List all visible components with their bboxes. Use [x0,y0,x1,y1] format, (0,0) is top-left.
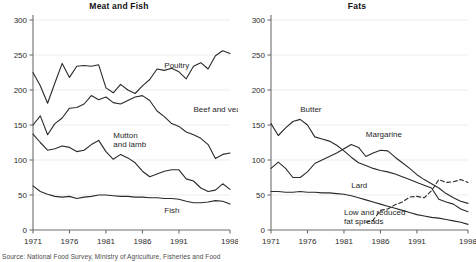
series-label-mutton-and-lamb: and lamb [113,140,146,149]
series-label-butter: Butter [300,105,322,114]
chart-panel-fats: Fats 05010015020025030019711976198119861… [238,0,476,262]
y-axis-tick-label: 300 [14,16,28,25]
y-axis-tick-label: 0 [23,226,28,235]
series-label-poultry: Poultry [164,61,189,70]
series-label-fish: Fish [164,206,179,215]
figure-container: Meat and Fish 05010015020025030019711976… [0,0,476,262]
series-label-beef-and-veal: Beef and veal [194,105,238,114]
y-axis-tick-label: 100 [14,156,28,165]
x-axis-tick-label: 1981 [335,237,353,246]
series-label-mutton-and-lamb: Mutton [113,131,137,140]
x-axis-tick-label: 1998 [459,237,476,246]
y-axis-tick-label: 200 [14,86,28,95]
series-label-margarine: Margarine [366,130,403,139]
x-axis-tick-label: 1991 [408,237,426,246]
y-axis-tick-label: 150 [252,121,266,130]
y-axis-tick-label: 50 [256,191,265,200]
x-axis-tick-label: 1976 [61,237,79,246]
source-note: Source: National Food Survey, Ministry o… [2,253,472,261]
chart-panel-meat-and-fish: Meat and Fish 05010015020025030019711976… [0,0,238,262]
series-label-low-and-reduced-fat-spreads: fat spreads [344,217,384,226]
x-axis-tick-label: 1971 [262,237,280,246]
plot-area-fats: 0501001502002503001971197619811986199119… [238,0,476,262]
x-axis-tick-label: 1981 [97,237,115,246]
y-axis-tick-label: 50 [18,191,27,200]
y-axis-tick-label: 300 [252,16,266,25]
x-axis-tick-label: 1986 [372,237,390,246]
plot-area-meat-and-fish: 0501001502002503001971197619811986199119… [0,0,238,262]
series-label-lard: Lard [351,181,367,190]
x-axis-tick-label: 1998 [221,237,238,246]
y-axis-tick-label: 200 [252,86,266,95]
series-line-poultry [33,51,230,104]
x-axis-tick-label: 1976 [299,237,317,246]
y-axis-tick-label: 0 [261,226,266,235]
x-axis-tick-label: 1971 [24,237,42,246]
y-axis-tick-label: 100 [252,156,266,165]
y-axis-tick-label: 250 [252,51,266,60]
x-axis-tick-label: 1986 [134,237,152,246]
y-axis-tick-label: 250 [14,51,28,60]
series-label-low-and-reduced-fat-spreads: Low and reduced [344,208,405,217]
x-axis-tick-label: 1991 [170,237,188,246]
y-axis-tick-label: 150 [14,121,28,130]
